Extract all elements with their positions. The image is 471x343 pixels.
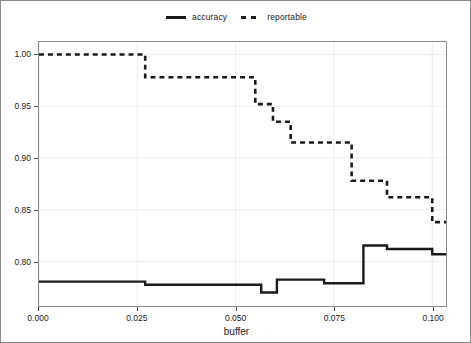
series-line-reportable <box>39 54 446 222</box>
plot-svg <box>39 42 446 306</box>
y-tick-mark <box>34 54 38 55</box>
chart-legend: accuracy reportable <box>1 9 471 25</box>
series-line-accuracy <box>39 245 446 292</box>
legend-entry-reportable: reportable <box>241 12 307 22</box>
y-tick-label: 0.95 <box>1 101 31 111</box>
x-tick-label: 0.025 <box>116 313 158 323</box>
legend-label-accuracy: accuracy <box>192 12 227 22</box>
chart-figure: accuracy reportable buffer 0.800.850.900… <box>0 0 471 343</box>
y-tick-mark <box>34 210 38 211</box>
dashed-line-swatch-icon <box>241 16 261 19</box>
x-tick-mark <box>38 307 39 311</box>
plot-area <box>38 41 447 307</box>
solid-line-swatch-icon <box>166 16 186 19</box>
x-axis-label: buffer <box>1 326 471 337</box>
y-tick-label: 0.90 <box>1 153 31 163</box>
series-layer <box>39 54 446 292</box>
legend-label-reportable: reportable <box>267 12 307 22</box>
legend-entry-accuracy: accuracy <box>166 12 227 22</box>
x-tick-mark <box>137 307 138 311</box>
y-tick-mark <box>34 158 38 159</box>
x-tick-label: 0.050 <box>215 313 257 323</box>
x-tick-mark <box>236 307 237 311</box>
y-tick-label: 1.00 <box>1 49 31 59</box>
y-tick-label: 0.80 <box>1 257 31 267</box>
x-tick-mark <box>334 307 335 311</box>
gridlines <box>39 42 446 306</box>
x-tick-label: 0.075 <box>313 313 355 323</box>
y-tick-mark <box>34 262 38 263</box>
x-tick-mark <box>433 307 434 311</box>
x-tick-label: 0.100 <box>412 313 454 323</box>
y-tick-label: 0.85 <box>1 205 31 215</box>
x-tick-label: 0.000 <box>17 313 59 323</box>
y-tick-mark <box>34 106 38 107</box>
